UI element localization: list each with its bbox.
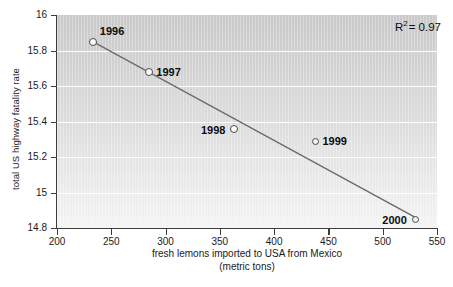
- y-tick-15: [51, 193, 57, 194]
- x-tick-550: [437, 229, 438, 235]
- x-axis-title: fresh lemons imported to USA from Mexico…: [57, 247, 437, 273]
- x-tick-300: [166, 229, 167, 235]
- x-axis-title-line1: fresh lemons imported to USA from Mexico: [152, 248, 342, 259]
- y-tick-label-15.6: 15.6: [0, 81, 47, 91]
- x-tick-500: [383, 229, 384, 235]
- x-tick-label-400: 400: [244, 237, 304, 247]
- x-tick-label-450: 450: [298, 237, 358, 247]
- r-squared-exponent: 2: [403, 19, 407, 28]
- x-tick-label-200: 200: [27, 237, 87, 247]
- y-tick-label-14.8: 14.8: [0, 223, 47, 233]
- x-tick-450: [328, 229, 329, 235]
- gridline-y-15: [57, 193, 437, 194]
- y-tick-label-15: 15: [0, 188, 47, 198]
- x-axis-title-line2: (metric tons): [57, 260, 437, 273]
- y-tick-label-15.8: 15.8: [0, 46, 47, 56]
- gridline-y-15.4: [57, 122, 437, 123]
- r-squared-value: = 0.97: [409, 21, 441, 33]
- x-tick-label-300: 300: [136, 237, 196, 247]
- y-tick-label-15.4: 15.4: [0, 117, 47, 127]
- y-tick-label-16: 16: [0, 10, 47, 20]
- gridline-y-15.6: [57, 86, 437, 87]
- gridline-y-15.8: [57, 51, 437, 52]
- y-tick-15.6: [51, 86, 57, 87]
- x-tick-label-250: 250: [81, 237, 141, 247]
- x-tick-350: [220, 229, 221, 235]
- x-tick-250: [111, 229, 112, 235]
- plot-area: [57, 15, 437, 228]
- x-axis-line: [56, 228, 438, 229]
- r-squared-annotation: R2 = 0.97: [395, 21, 441, 33]
- y-tick-15.8: [51, 51, 57, 52]
- x-tick-label-350: 350: [190, 237, 250, 247]
- y-tick-15.2: [51, 157, 57, 158]
- x-tick-400: [274, 229, 275, 235]
- y-tick-15.4: [51, 122, 57, 123]
- gridline-y-15.2: [57, 157, 437, 158]
- scatter-chart-figure: total US highway fatality rate 14.81515.…: [0, 0, 453, 287]
- x-tick-label-500: 500: [353, 237, 413, 247]
- x-tick-label-550: 550: [407, 237, 453, 247]
- y-tick-16: [51, 15, 57, 16]
- y-tick-label-15.2: 15.2: [0, 152, 47, 162]
- x-tick-200: [57, 229, 58, 235]
